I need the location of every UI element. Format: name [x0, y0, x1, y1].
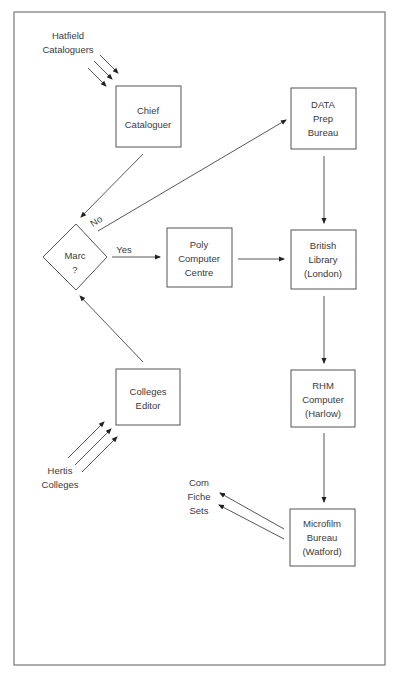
- label-line: Prep: [313, 113, 333, 124]
- label-line: Hertis: [48, 465, 73, 476]
- label-line: (London): [304, 268, 342, 279]
- label-line: Library: [308, 254, 337, 265]
- label-line: Bureau: [307, 532, 338, 543]
- label-microfilm-bureau: Microfilm Bureau (Watford): [302, 518, 341, 557]
- edge-hertis-editor-3: [82, 437, 117, 472]
- edge-label-no: No: [88, 213, 104, 229]
- edge-colleges-editor-marc: [80, 296, 143, 362]
- label-line: Hatfield: [52, 30, 84, 41]
- label-line: (Watford): [302, 546, 341, 557]
- label-line: Cataloguers: [42, 44, 93, 55]
- label-line: Sets: [189, 505, 208, 516]
- label-line: Poly: [190, 239, 209, 250]
- label-line: Computer: [178, 253, 220, 264]
- node-colleges-editor: [116, 369, 180, 425]
- flowchart-diagram: Hatfield Cataloguers Chief Cataloguer DA…: [0, 0, 398, 678]
- edge-microfilm-comfiche-2: [219, 505, 284, 539]
- node-chief-cataloguer: [116, 86, 181, 147]
- label-line: RHM: [312, 380, 334, 391]
- label-line: Marc: [64, 250, 85, 261]
- label-line: Bureau: [308, 127, 339, 138]
- label-line: Centre: [185, 267, 214, 278]
- label-hertis-colleges: Hertis Colleges: [42, 465, 79, 490]
- label-line: Fiche: [187, 491, 210, 502]
- label-line: Cataloguer: [125, 119, 171, 130]
- label-hatfield-cataloguers: Hatfield Cataloguers: [42, 30, 93, 55]
- label-com-fiche-sets: Com Fiche Sets: [187, 477, 210, 516]
- label-line: Colleges: [42, 479, 79, 490]
- edge-label-yes: Yes: [116, 244, 132, 255]
- label-line: ?: [72, 264, 77, 275]
- label-line: Editor: [136, 400, 161, 411]
- label-line: DATA: [311, 99, 336, 110]
- label-line: Computer: [302, 394, 344, 405]
- edge-hertis-editor-2: [75, 429, 111, 465]
- label-line: British: [310, 240, 336, 251]
- label-line: (Harlow): [305, 408, 341, 419]
- label-line: Microfilm: [303, 518, 341, 529]
- edge-hertis-editor-1: [68, 422, 104, 458]
- label-line: Colleges: [130, 386, 167, 397]
- label-line: Com: [189, 477, 209, 488]
- edge-chief-marc: [81, 154, 143, 217]
- label-line: Chief: [137, 105, 160, 116]
